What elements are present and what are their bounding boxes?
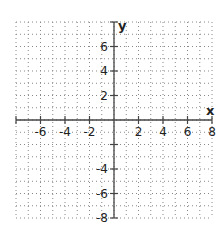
x-axis-label: x	[206, 103, 215, 118]
y-tick-label: -6	[96, 187, 108, 201]
x-tick-label: 8	[208, 125, 216, 139]
y-tick-label: -8	[96, 211, 108, 225]
x-tick-label: -6	[35, 125, 47, 139]
x-tick-label: -4	[59, 125, 71, 139]
x-tick-label: 4	[159, 125, 167, 139]
y-tick-label: 2	[100, 89, 108, 103]
x-tick-label: 2	[135, 125, 143, 139]
tick-labels: -6-4-22468642-4-6-8	[35, 40, 216, 226]
x-tick-label: -2	[84, 125, 96, 139]
coordinate-plane: -6-4-22468642-4-6-8 x y	[0, 0, 222, 235]
y-tick-label: 4	[100, 64, 108, 78]
y-tick-label: -4	[96, 162, 108, 176]
axes	[16, 22, 212, 218]
y-tick-label: 6	[100, 40, 108, 54]
x-tick-label: 6	[184, 125, 192, 139]
y-axis-label: y	[118, 18, 127, 33]
